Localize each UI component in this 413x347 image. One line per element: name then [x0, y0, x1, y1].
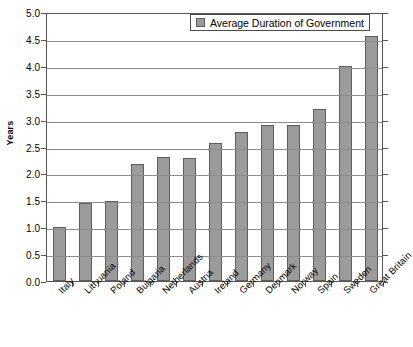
y-axis-tick-label: 5.0 — [26, 8, 40, 19]
y-axis-tick-mark — [41, 13, 46, 14]
y-axis-tick-label: 1.5 — [26, 196, 40, 207]
gridline — [47, 202, 382, 203]
y-axis-tick-mark-right — [383, 255, 388, 256]
legend-swatch-icon — [196, 18, 205, 27]
bar — [339, 66, 352, 281]
y-axis-tick-label: 4.5 — [26, 34, 40, 45]
gridline — [47, 229, 382, 230]
gridline — [47, 95, 382, 96]
y-axis-tick-mark — [41, 121, 46, 122]
bar — [53, 227, 66, 281]
bar — [79, 203, 92, 281]
y-axis-tick-mark-right — [383, 148, 388, 149]
y-axis-tick-mark — [41, 174, 46, 175]
gridline — [47, 149, 382, 150]
gridline — [47, 122, 382, 123]
y-axis-tick-mark-right — [383, 94, 388, 95]
gridline — [47, 41, 382, 42]
y-axis-tick-mark — [41, 201, 46, 202]
y-axis-tick-mark — [41, 94, 46, 95]
bar-series — [47, 14, 382, 281]
y-axis-tick-mark-right — [383, 228, 388, 229]
y-axis-tick-mark — [41, 282, 46, 283]
y-axis-tick-mark-right — [383, 67, 388, 68]
gridline — [47, 256, 382, 257]
y-axis-tick-mark — [41, 255, 46, 256]
y-axis-tick-mark — [41, 67, 46, 68]
gridline — [47, 68, 382, 69]
y-axis-tick-labels: 0.00.51.01.52.02.53.03.54.04.55.0 — [0, 0, 44, 347]
y-axis-tick-label: 3.5 — [26, 88, 40, 99]
y-axis-tick-mark-right — [383, 13, 388, 14]
y-axis-tick-mark — [41, 40, 46, 41]
y-axis-tick-label: 2.0 — [26, 169, 40, 180]
y-axis-tick-label: 1.0 — [26, 223, 40, 234]
bar — [209, 143, 222, 281]
y-axis-tick-mark-right — [383, 40, 388, 41]
y-axis-tick-mark-right — [383, 201, 388, 202]
chart-legend: Average Duration of Government — [190, 14, 370, 31]
y-axis-tick-mark-right — [383, 174, 388, 175]
y-axis-tick-label: 0.5 — [26, 250, 40, 261]
y-axis-tick-label: 3.0 — [26, 115, 40, 126]
bar — [365, 36, 378, 281]
gridline — [47, 175, 382, 176]
bar — [131, 164, 144, 281]
y-axis-tick-mark — [41, 228, 46, 229]
y-axis-tick-label: 2.5 — [26, 142, 40, 153]
plot-area — [46, 13, 383, 282]
y-axis-tick-label: 4.0 — [26, 61, 40, 72]
bar — [235, 132, 248, 281]
y-axis-tick-mark — [41, 148, 46, 149]
legend-entry-label: Average Duration of Government — [210, 17, 364, 29]
y-axis-tick-mark-right — [383, 121, 388, 122]
y-axis-tick-label: 0.0 — [26, 277, 40, 288]
